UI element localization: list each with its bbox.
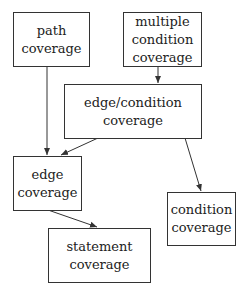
node-label: statement — [66, 238, 132, 256]
node-label: multiple — [135, 13, 189, 31]
arrow-edge-to-statement — [48, 210, 97, 227]
node-label: coverage — [171, 219, 231, 237]
node-label: coverage — [17, 184, 77, 202]
node-label: edge/condition — [84, 94, 182, 112]
node-label: condition — [171, 201, 233, 219]
node-label: coverage — [132, 49, 192, 67]
node-condition-coverage: condition coverage — [167, 192, 236, 246]
node-label: path — [37, 22, 67, 40]
node-path-coverage: path coverage — [13, 12, 90, 67]
node-statement-coverage: statement coverage — [48, 228, 151, 283]
arrow-edgecond-to-edge — [61, 138, 98, 155]
node-edge-coverage: edge coverage — [13, 156, 82, 211]
node-label: condition — [132, 31, 194, 49]
node-label: edge — [31, 166, 63, 184]
node-edge-condition-coverage: edge/condition coverage — [64, 84, 202, 139]
node-multiple-condition-coverage: multiple condition coverage — [123, 12, 202, 67]
node-label: coverage — [69, 256, 129, 274]
arrow-edgecond-to-condition — [185, 138, 201, 191]
node-label: coverage — [103, 112, 163, 130]
node-label: coverage — [21, 40, 81, 58]
